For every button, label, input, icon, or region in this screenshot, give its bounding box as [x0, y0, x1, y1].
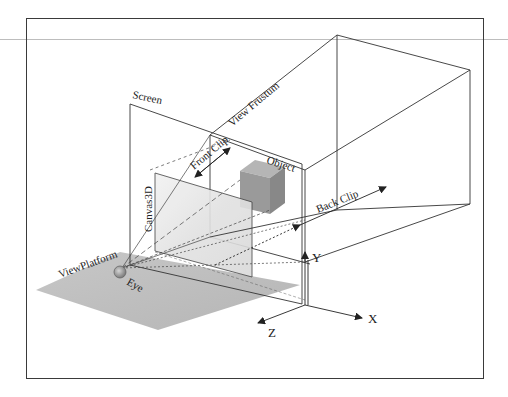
- view-frustum-diagram: Screen View Frustum Front Clip Object Ca…: [0, 0, 508, 397]
- label-axis-x: X: [368, 311, 378, 326]
- label-canvas3d: Canvas3D: [142, 186, 154, 232]
- eye-icon: [114, 266, 126, 278]
- label-screen: Screen: [132, 88, 164, 106]
- label-view-frustum: View Frustum: [226, 79, 282, 129]
- label-axis-y: Y: [312, 250, 322, 265]
- label-axis-z: Z: [268, 325, 276, 340]
